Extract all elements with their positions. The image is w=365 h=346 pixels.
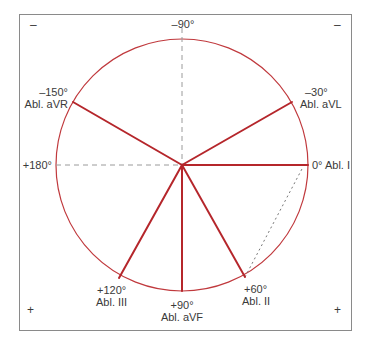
lead-angle-aVL: –30° <box>300 86 342 98</box>
lead-aVR-line <box>73 102 182 165</box>
lead-label-II: +60° Abl. II <box>240 283 270 307</box>
lead-name-III: Abl. III <box>96 296 127 308</box>
axis-label-180: +180° <box>14 159 52 171</box>
lead-angle-II: +60° <box>240 283 270 295</box>
lead-label-aVL: –30° Abl. aVL <box>300 86 342 110</box>
corner-sign-bottom-left: + <box>27 303 34 317</box>
corner-sign-top-right: – <box>334 18 341 32</box>
lead-name-aVF: Abl. aVF <box>157 311 207 323</box>
lead-angle-aVR: –150° <box>20 86 68 98</box>
lead-label-aVF: +90° Abl. aVF <box>157 299 207 323</box>
lead-name-aVL: Abl. aVL <box>300 98 342 110</box>
lead-III-line <box>119 165 182 278</box>
lead-label-III: +120° Abl. III <box>96 284 127 308</box>
lead-angle-aVF: +90° <box>157 299 207 311</box>
corner-sign-top-left: – <box>30 18 37 32</box>
lead-II-line <box>182 165 245 277</box>
lead-angle-III: +120° <box>96 284 127 296</box>
lead-name-aVR: Abl. aVR <box>20 98 68 110</box>
lead-name-II: Abl. II <box>240 295 270 307</box>
axis-label-minus90: –90° <box>166 18 200 30</box>
hexaxial-diagram <box>0 0 365 346</box>
lead-aVL-line <box>182 102 292 165</box>
lead-label-I: 0° Abl. I <box>312 159 350 171</box>
corner-sign-bottom-right: + <box>334 303 341 317</box>
lead-label-aVR: –150° Abl. aVR <box>20 86 68 110</box>
